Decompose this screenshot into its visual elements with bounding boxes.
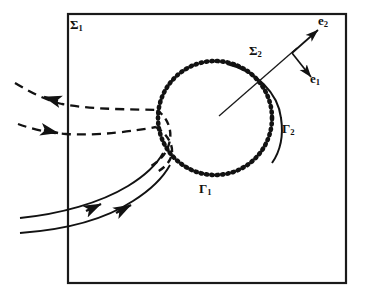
label-gamma1: Γ1 [199,182,212,197]
dashed-streamline-lower-arrow [44,130,58,133]
label-sigma2: Σ2 [249,44,262,59]
label-sigma1: Σ1 [70,18,83,33]
solid-streamline-lower [20,165,170,233]
outer-boundary-rectangle [68,14,346,283]
dashed-streamline-lower [18,124,156,134]
figure-canvas: Σ1 Σ2 Γ1 Γ2 e2 e1 [0,0,366,295]
dashed-streamline-upper [15,83,157,110]
e2-basis-vector [292,30,318,53]
solid-streamline-upper-arrow [86,204,101,211]
e1-basis-vector [292,53,311,77]
label-e2: e2 [318,14,328,29]
solid-streamline-group [20,153,170,233]
label-gamma2: Γ2 [282,122,295,137]
label-e1: e1 [310,72,320,87]
dashed-streamline-group [15,83,157,134]
gamma1-dotted-circle [158,61,272,175]
diagram-svg [0,0,366,295]
